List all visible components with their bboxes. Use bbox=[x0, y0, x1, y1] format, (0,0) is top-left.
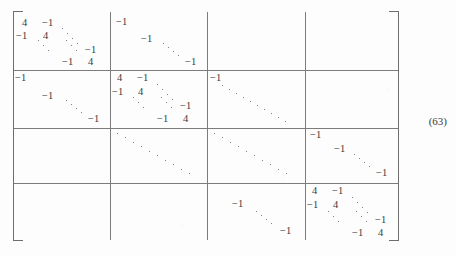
matrix-entry: −1 bbox=[16, 31, 27, 42]
matrix-entry: 4 bbox=[183, 114, 188, 125]
block-4-4: 4 −1 −1 4 −1 −1 4 bbox=[306, 184, 398, 240]
block-1-4 bbox=[306, 12, 398, 70]
matrix-entry: 4 bbox=[138, 87, 143, 98]
equation-number: (63) bbox=[429, 115, 447, 127]
matrix-entry: −1 bbox=[88, 114, 99, 125]
matrix-entry: −1 bbox=[334, 144, 345, 155]
block-2-3: −1 bbox=[208, 71, 305, 128]
matrix-entry: −1 bbox=[376, 168, 387, 179]
matrix-figure: 4 −1 −1 4 −1 −1 4 −1 −1 −1 bbox=[13, 11, 399, 241]
ellipsis-diagonal bbox=[354, 154, 374, 170]
ellipsis-diagonal bbox=[163, 43, 183, 59]
ellipsis-diagonal bbox=[66, 100, 86, 116]
matrix-entry: −1 bbox=[352, 228, 363, 239]
matrix-entry: −1 bbox=[210, 73, 221, 84]
matrix-entry: −1 bbox=[62, 57, 73, 68]
matrix-entry: −1 bbox=[42, 18, 53, 29]
block-4-1 bbox=[14, 184, 110, 240]
ellipsis-diagonal bbox=[133, 97, 155, 117]
matrix-entry: −1 bbox=[232, 199, 243, 210]
ellipsis-diagonal bbox=[328, 211, 350, 231]
block-3-1 bbox=[14, 129, 110, 183]
matrix-entry: 4 bbox=[378, 228, 383, 239]
block-1-3 bbox=[208, 12, 305, 70]
block-2-4 bbox=[306, 71, 398, 128]
matrix-entry: −1 bbox=[42, 91, 53, 102]
matrix-entry: 4 bbox=[88, 57, 93, 68]
matrix-entry: 4 bbox=[43, 31, 48, 42]
block-3-4: −1 −1 −1 bbox=[306, 129, 398, 183]
matrix-entry: 4 bbox=[312, 186, 317, 197]
matrix-entry: 4 bbox=[333, 200, 338, 211]
matrix-entry: −1 bbox=[280, 226, 291, 237]
block-3-2 bbox=[111, 129, 207, 183]
ellipsis-diagonal bbox=[214, 133, 300, 179]
block-4-3: −1 −1 bbox=[208, 184, 305, 240]
block-2-2: 4 −1 −1 4 −1 −1 4 bbox=[111, 71, 207, 128]
matrix-entry: −1 bbox=[307, 200, 318, 211]
ellipsis-diagonal bbox=[256, 211, 276, 227]
matrix-entry: −1 bbox=[157, 114, 168, 125]
matrix-entry: −1 bbox=[112, 87, 123, 98]
matrix-entry: −1 bbox=[310, 130, 321, 141]
document-page: 4 −1 −1 4 −1 −1 4 −1 −1 −1 bbox=[0, 0, 456, 256]
matrix-entry: −1 bbox=[116, 17, 127, 28]
matrix-entry: 4 bbox=[22, 18, 27, 29]
block-1-2: −1 −1 −1 bbox=[111, 12, 207, 70]
block-1-1: 4 −1 −1 4 −1 −1 4 bbox=[14, 12, 110, 70]
matrix-entry: −1 bbox=[375, 215, 386, 226]
matrix-entry: −1 bbox=[332, 186, 343, 197]
ellipsis-diagonal bbox=[222, 85, 294, 125]
matrix-entry: −1 bbox=[180, 101, 191, 112]
ellipsis-diagonal bbox=[38, 40, 60, 60]
matrix-entry: −1 bbox=[85, 45, 96, 56]
matrix-entry: −1 bbox=[15, 73, 26, 84]
block-3-3 bbox=[208, 129, 305, 183]
matrix-entry: −1 bbox=[137, 73, 148, 84]
matrix-entry: −1 bbox=[141, 34, 152, 45]
matrix-entry: −1 bbox=[185, 57, 196, 68]
ellipsis-diagonal bbox=[117, 133, 203, 179]
matrix-entry: 4 bbox=[117, 73, 122, 84]
block-4-2 bbox=[111, 184, 207, 240]
block-2-1: −1 −1 −1 bbox=[14, 71, 110, 128]
